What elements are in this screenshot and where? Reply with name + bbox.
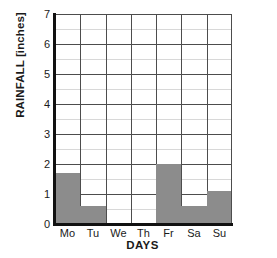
x-tick-label-fr: Fr bbox=[156, 227, 182, 239]
y-tick-label: 0 bbox=[34, 219, 50, 230]
bar-sa bbox=[181, 206, 207, 224]
gridline-major bbox=[55, 104, 232, 105]
y-tick-label: 4 bbox=[34, 99, 50, 110]
bar-su bbox=[207, 191, 232, 224]
gridline-minor bbox=[55, 119, 232, 120]
gridline-major bbox=[55, 194, 232, 195]
gridline-vertical bbox=[181, 14, 182, 224]
plot-top-border bbox=[55, 14, 232, 15]
gridline-major bbox=[55, 134, 232, 135]
plot-right-border bbox=[231, 14, 232, 224]
x-tick-label-sa: Sa bbox=[181, 227, 207, 239]
gridline-minor bbox=[55, 89, 232, 90]
bar-fr bbox=[156, 164, 181, 224]
y-axis-tick-labels: 01234567 bbox=[30, 0, 50, 258]
gridline-minor bbox=[55, 179, 232, 180]
y-tick-label: 1 bbox=[34, 189, 50, 200]
bar-mo bbox=[55, 173, 80, 224]
gridline-major bbox=[55, 164, 232, 165]
y-tick-label: 6 bbox=[34, 39, 50, 50]
x-tick-label-tu: Tu bbox=[80, 227, 106, 239]
gridline-vertical bbox=[131, 14, 132, 224]
rainfall-bar-chart: RAINFALL [inches] 01234567 DAYS MoTuWeTh… bbox=[0, 0, 277, 258]
gridline-major bbox=[55, 44, 232, 45]
x-tick-label-we: We bbox=[106, 227, 132, 239]
y-tick-label: 5 bbox=[34, 69, 50, 80]
plot-area bbox=[55, 14, 232, 224]
y-tick-label: 3 bbox=[34, 129, 50, 140]
x-axis-spine bbox=[53, 223, 233, 226]
gridline-minor bbox=[55, 29, 232, 30]
x-axis-label: DAYS bbox=[52, 239, 233, 251]
x-tick-label-mo: Mo bbox=[55, 227, 81, 239]
y-axis-label: RAINFALL [inches] bbox=[10, 0, 30, 135]
y-axis-spine bbox=[53, 13, 56, 226]
x-tick-label-th: Th bbox=[131, 227, 157, 239]
gridline-vertical bbox=[106, 14, 107, 224]
y-tick-label: 7 bbox=[34, 9, 50, 20]
gridline-minor bbox=[55, 59, 232, 60]
gridline-minor bbox=[55, 149, 232, 150]
gridline-major bbox=[55, 74, 232, 75]
y-tick-label: 2 bbox=[34, 159, 50, 170]
x-tick-label-su: Su bbox=[207, 227, 233, 239]
gridline-vertical bbox=[80, 14, 81, 224]
bar-tu bbox=[80, 206, 106, 224]
